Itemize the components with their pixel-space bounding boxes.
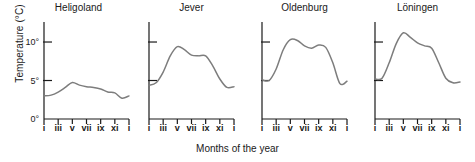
chart-panel: Jeveriiiivviiixxii: [135, 0, 248, 140]
chart-panel: Oldenburgiiiivviiixxii: [248, 0, 361, 140]
x-tick-label: i: [261, 122, 264, 134]
y-tick-label: 5°: [22, 76, 39, 86]
panel-title: Heligoland: [22, 2, 135, 13]
temperature-series-line: [149, 46, 234, 87]
x-tick-label-group: iiiivviiixxii: [248, 122, 361, 134]
x-tick-label-group: iiiivviiixxii: [22, 122, 135, 134]
chart-figure: Temperature (°C) Heligoland0°5°10°iiiivv…: [0, 0, 475, 162]
x-tick-label: i: [346, 122, 349, 134]
temperature-series-line: [262, 39, 347, 85]
x-tick-label: ix: [97, 122, 105, 134]
x-tick-label: i: [148, 122, 151, 134]
x-tick-label: iii: [385, 122, 393, 134]
panel-title: Jever: [135, 2, 248, 13]
x-tick-label: vii: [81, 122, 91, 134]
x-tick-label: ix: [315, 122, 323, 134]
x-tick-label: ix: [202, 122, 210, 134]
x-tick-label: xi: [442, 122, 450, 134]
x-tick-label: i: [43, 122, 46, 134]
x-tick-label: i: [374, 122, 377, 134]
temperature-series-line: [44, 82, 129, 98]
x-tick-label: xi: [111, 122, 119, 134]
chart-panel: Löningeniiiivviiixxii: [361, 0, 474, 140]
chart-panel: Heligoland0°5°10°iiiivviiixxii: [22, 0, 135, 140]
x-tick-label: i: [459, 122, 462, 134]
x-tick-label: iii: [272, 122, 280, 134]
panel-plot-area: [248, 18, 355, 131]
x-tick-label: v: [70, 122, 75, 134]
x-tick-label: v: [175, 122, 180, 134]
y-tick-label: 10°: [22, 37, 39, 47]
x-tick-label: xi: [216, 122, 224, 134]
x-tick-label: iii: [159, 122, 167, 134]
x-tick-label: vii: [412, 122, 422, 134]
x-tick-label: i: [128, 122, 131, 134]
panel-title: Oldenburg: [248, 2, 361, 13]
panel-plot-area: [22, 18, 137, 131]
panel-container: Heligoland0°5°10°iiiivviiixxiiJeveriiiiv…: [22, 0, 475, 140]
panel-plot-area: [135, 18, 242, 131]
x-tick-label: vii: [186, 122, 196, 134]
x-tick-label: xi: [329, 122, 337, 134]
x-tick-label: ix: [428, 122, 436, 134]
x-tick-label-group: iiiivviiixxii: [361, 122, 474, 134]
panel-title: Löningen: [361, 2, 474, 13]
x-tick-label: iii: [54, 122, 62, 134]
x-axis-title: Months of the year: [0, 143, 475, 154]
panel-plot-area: [361, 18, 468, 131]
x-tick-label: v: [401, 122, 406, 134]
x-tick-label: i: [233, 122, 236, 134]
temperature-series-line: [375, 33, 460, 83]
x-tick-label: v: [288, 122, 293, 134]
x-tick-label-group: iiiivviiixxii: [135, 122, 248, 134]
x-tick-label: vii: [299, 122, 309, 134]
